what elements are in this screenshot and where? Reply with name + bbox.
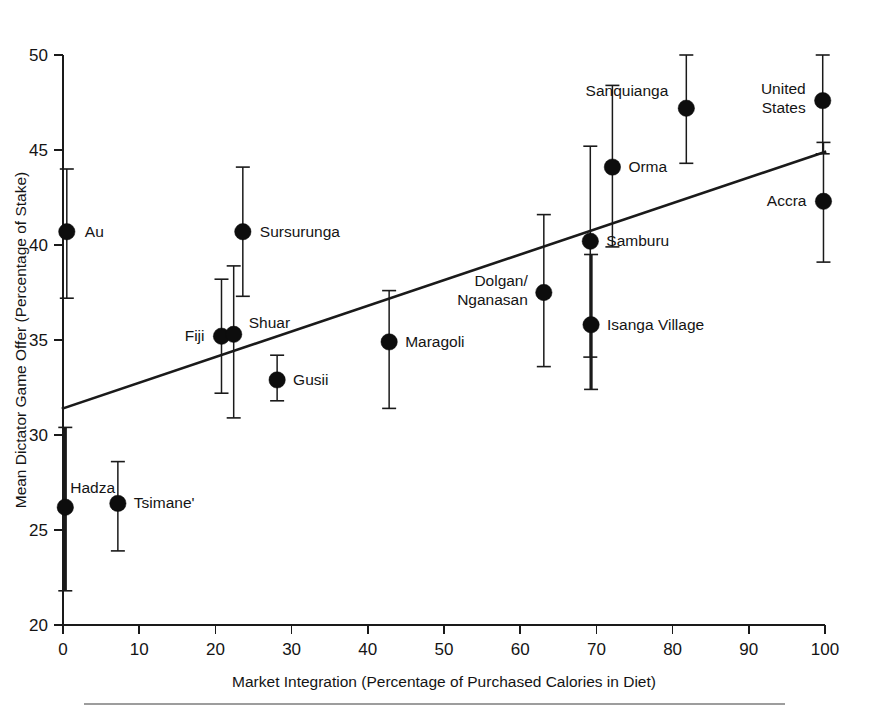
data-point-au[interactable]: [59, 224, 75, 240]
trend-line-group: [63, 152, 825, 409]
data-point-dolgan-nganasan[interactable]: [536, 284, 552, 300]
point-label-hadza: Hadza: [70, 479, 115, 496]
y-tick-label-50: 50: [29, 46, 48, 65]
point-label-maragoli: Maragoli: [405, 333, 464, 350]
y-tick-label-20: 20: [29, 616, 48, 635]
x-tick-label-40: 40: [358, 640, 377, 659]
x-tick-label-20: 20: [206, 640, 225, 659]
x-tick-label-0: 0: [58, 640, 67, 659]
data-point-sanquianga[interactable]: [678, 100, 694, 116]
point-label-united-states: States: [762, 99, 806, 116]
y-tick-label-35: 35: [29, 331, 48, 350]
y-axis-title: Mean Dictator Game Offer (Percentage of …: [12, 172, 29, 509]
x-axis-title: Market Integration (Percentage of Purcha…: [232, 673, 656, 690]
data-point-accra[interactable]: [815, 193, 831, 209]
tick-labels-group: 202530354045500102030405060708090100: [29, 46, 839, 659]
y-tick-label-30: 30: [29, 426, 48, 445]
y-tick-label-40: 40: [29, 236, 48, 255]
point-label-united-states: United: [761, 80, 806, 97]
point-label-sursurunga: Sursurunga: [260, 223, 341, 240]
y-tick-label-45: 45: [29, 141, 48, 160]
point-label-gusii: Gusii: [293, 371, 328, 388]
data-point-hadza[interactable]: [57, 499, 73, 515]
y-tick-label-25: 25: [29, 521, 48, 540]
x-tick-label-10: 10: [130, 640, 149, 659]
point-label-samburu: Samburu: [606, 232, 669, 249]
data-point-samburu[interactable]: [582, 233, 598, 249]
x-tick-label-80: 80: [663, 640, 682, 659]
point-label-dolgan-nganasan: Nganasan: [457, 291, 528, 308]
x-tick-label-50: 50: [435, 640, 454, 659]
point-label-isanga-village: Isanga Village: [607, 316, 704, 333]
figure-container: AuHadzaTsimane'FijiShuarSursurungaGusiiM…: [0, 0, 876, 719]
point-label-au: Au: [85, 223, 104, 240]
axis-titles-group: Market Integration (Percentage of Purcha…: [12, 172, 656, 690]
data-point-sursurunga[interactable]: [235, 224, 251, 240]
data-point-united-states[interactable]: [815, 92, 831, 108]
point-label-orma: Orma: [628, 158, 667, 175]
data-point-isanga-village[interactable]: [583, 317, 599, 333]
point-labels-group: AuHadzaTsimane'FijiShuarSursurungaGusiiM…: [70, 80, 807, 512]
data-points-group: [57, 92, 832, 515]
data-point-orma[interactable]: [604, 159, 620, 175]
data-point-shuar[interactable]: [225, 326, 241, 342]
data-point-tsimane[interactable]: [110, 495, 126, 511]
x-tick-label-90: 90: [739, 640, 758, 659]
point-label-shuar: Shuar: [249, 314, 290, 331]
x-tick-label-60: 60: [511, 640, 530, 659]
point-label-accra: Accra: [767, 192, 807, 209]
point-label-tsimane: Tsimane': [134, 494, 195, 511]
point-label-fiji: Fiji: [185, 327, 205, 344]
point-label-dolgan-nganasan: Dolgan/: [474, 272, 528, 289]
x-tick-label-70: 70: [587, 640, 606, 659]
x-tick-label-30: 30: [282, 640, 301, 659]
data-point-maragoli[interactable]: [381, 334, 397, 350]
x-tick-label-100: 100: [811, 640, 839, 659]
scatter-plot: AuHadzaTsimane'FijiShuarSursurungaGusiiM…: [0, 0, 876, 719]
regression-line: [63, 152, 825, 409]
point-label-sanquianga: Sanquianga: [586, 82, 669, 99]
data-point-gusii[interactable]: [269, 372, 285, 388]
